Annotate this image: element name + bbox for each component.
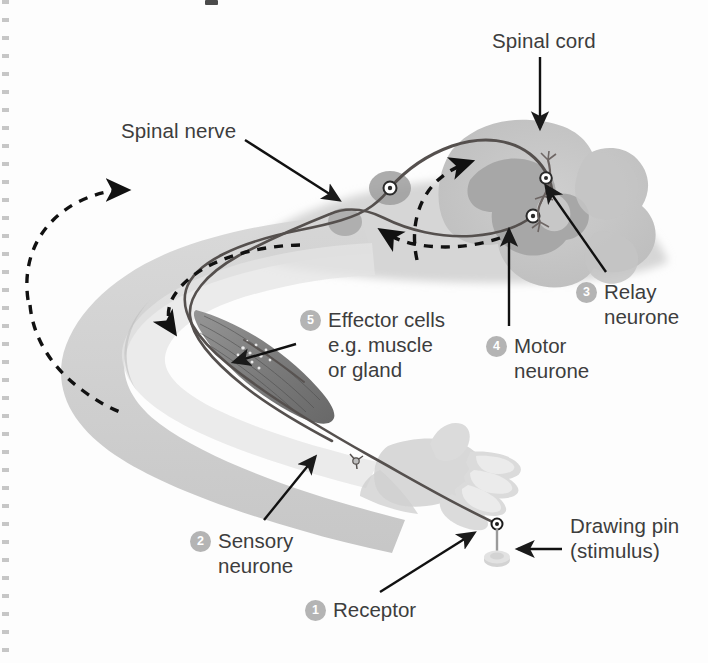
label-receptor-text: Receptor	[333, 597, 416, 622]
badge-4: 4	[486, 336, 507, 357]
label-relay-neurone: 3 Relay neurone	[576, 279, 679, 329]
label-motor-neurone-text: Motor neurone	[514, 333, 589, 383]
label-receptor: 1 Receptor	[305, 597, 416, 622]
label-relay-neurone-text: Relay neurone	[604, 279, 679, 329]
badge-1: 1	[305, 600, 326, 621]
receptor	[492, 519, 503, 530]
label-sensory-neurone-text: Sensory neurone	[218, 528, 293, 578]
hand-outline	[360, 423, 521, 530]
label-drawing-pin: Drawing pin (stimulus)	[570, 513, 679, 563]
label-effector-cells: 5 Effector cells e.g. muscle or gland	[300, 307, 445, 382]
badge-3: 3	[576, 282, 597, 303]
scanned-page-edge	[2, 0, 9, 663]
arm-outline	[61, 215, 405, 553]
label-motor-neurone: 4 Motor neurone	[486, 333, 589, 383]
cropped-text-fragment	[205, 0, 218, 5]
leader-spinal-nerve	[245, 140, 339, 200]
label-spinal-cord: Spinal cord	[492, 28, 596, 53]
badge-5: 5	[300, 310, 321, 331]
drawing-pin	[484, 528, 510, 567]
label-effector-cells-text: Effector cells e.g. muscle or gland	[328, 307, 445, 382]
figure-canvas: Spinal cord Spinal nerve Drawing pin (st…	[0, 0, 708, 663]
badge-2: 2	[190, 531, 211, 552]
label-spinal-nerve: Spinal nerve	[121, 118, 236, 143]
label-sensory-neurone: 2 Sensory neurone	[190, 528, 293, 578]
